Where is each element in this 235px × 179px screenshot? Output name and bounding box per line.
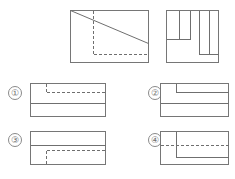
option-4-figure[interactable]: [160, 131, 229, 165]
option-2-outline: [161, 84, 229, 117]
option-2-svg[interactable]: [160, 83, 229, 117]
front-view: [70, 10, 149, 63]
option-1-figure[interactable]: [30, 83, 106, 117]
side-view-svg: [166, 10, 219, 63]
front-view-svg: [70, 10, 149, 63]
option-3-figure[interactable]: [30, 131, 106, 165]
option-1-outline: [31, 84, 106, 117]
option-4-svg[interactable]: [160, 131, 229, 165]
option-3-outline: [31, 132, 106, 165]
option-3-number[interactable]: ③: [8, 133, 22, 147]
option-3-svg[interactable]: [30, 131, 106, 165]
option-1-number[interactable]: ①: [8, 86, 22, 100]
option-2-figure[interactable]: [160, 83, 229, 117]
option-4-outline: [161, 132, 229, 165]
drawing-page: ① ② ③ ④: [0, 0, 235, 179]
option-1-svg[interactable]: [30, 83, 106, 117]
side-view: [166, 10, 219, 63]
